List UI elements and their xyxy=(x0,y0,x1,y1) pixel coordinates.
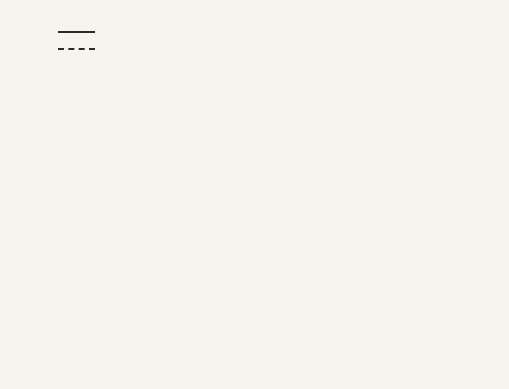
figure-page xyxy=(0,0,509,389)
productivity-line-chart xyxy=(0,0,509,389)
legend-item-annual-change xyxy=(58,23,103,40)
legend-item-5yr-average xyxy=(58,40,103,57)
solid-line-swatch xyxy=(58,31,95,33)
chart-legend xyxy=(58,23,103,57)
figure-number-label xyxy=(378,16,382,28)
dashed-line-swatch xyxy=(58,48,95,50)
figure-caption xyxy=(378,15,506,31)
